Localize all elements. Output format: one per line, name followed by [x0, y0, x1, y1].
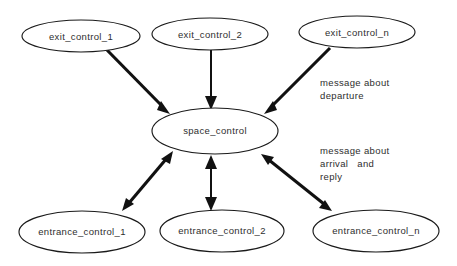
- node-entrance-control-2[interactable]: entrance_control_2: [160, 210, 284, 252]
- arrowhead-icon: [205, 197, 217, 211]
- node-exit-control-n[interactable]: exit_control_n: [299, 16, 415, 48]
- annotation-line: reply: [320, 171, 342, 182]
- annotation-line: message about: [320, 77, 390, 88]
- node-layer: exit_control_1 exit_control_2 exit_contr…: [19, 16, 439, 253]
- node-label: exit_control_1: [49, 31, 113, 42]
- node-label: entrance_control_2: [178, 225, 266, 236]
- annotation-arrival-reply: message about arrival and reply: [320, 145, 390, 182]
- node-label: exit_control_n: [325, 27, 389, 38]
- edge-exit-control-2-to-space-control: [205, 50, 217, 110]
- edge-line: [269, 160, 324, 204]
- diagram-canvas: exit_control_1 exit_control_2 exit_contr…: [0, 0, 457, 266]
- annotation-line: arrival and: [320, 158, 374, 169]
- node-exit-control-2[interactable]: exit_control_2: [152, 18, 268, 50]
- annotation-layer: message about departure message about ar…: [320, 77, 390, 182]
- node-entrance-control-1[interactable]: entrance_control_1: [19, 211, 145, 253]
- node-exit-control-1[interactable]: exit_control_1: [22, 20, 140, 52]
- diagram-svg: exit_control_1 exit_control_2 exit_contr…: [0, 0, 457, 266]
- annotation-departure: message about departure: [320, 77, 390, 101]
- edge-line: [106, 49, 163, 107]
- node-label: space_control: [183, 125, 247, 136]
- node-label: entrance_control_n: [332, 225, 420, 236]
- node-label: entrance_control_1: [38, 226, 126, 237]
- node-label: exit_control_2: [178, 29, 242, 40]
- node-entrance-control-n[interactable]: entrance_control_n: [313, 210, 439, 252]
- arrowhead-icon: [205, 155, 217, 169]
- annotation-line: message about: [320, 145, 390, 156]
- edge-exit-control-1-to-space-control: [106, 49, 170, 114]
- node-space-control[interactable]: space_control: [152, 108, 278, 154]
- annotation-line: departure: [320, 90, 364, 101]
- edge-space-control-to-entrance-control-1: [122, 151, 173, 211]
- edge-space-control-to-entrance-control-2: [205, 155, 217, 211]
- edge-line: [129, 158, 167, 203]
